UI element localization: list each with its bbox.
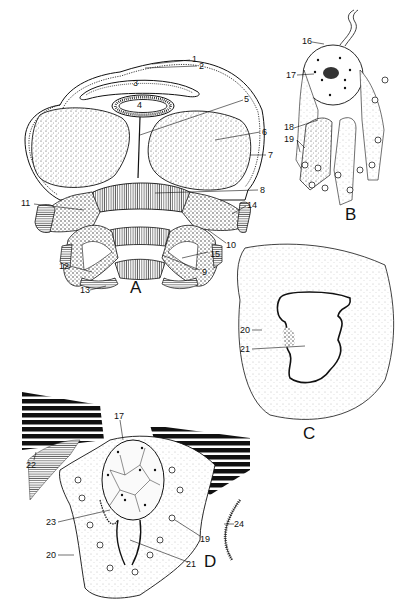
label-d-23: 23 — [46, 518, 56, 527]
label-a-9: 9 — [202, 268, 207, 277]
label-d-21: 21 — [186, 560, 196, 569]
panel-c-letter: C — [303, 425, 315, 442]
label-d-19: 19 — [200, 535, 210, 544]
label-a-12: 12 — [59, 262, 69, 271]
label-b-19: 19 — [284, 135, 294, 144]
label-a-1: 1 — [192, 55, 197, 64]
label-d-22: 22 — [26, 461, 36, 470]
label-a-11: 11 — [21, 199, 30, 208]
label-c-20: 20 — [240, 326, 250, 335]
label-a-2: 2 — [199, 62, 204, 71]
label-a-15: 15 — [210, 250, 220, 259]
label-c-21: 21 — [240, 345, 250, 354]
panel-c-drawing — [237, 244, 393, 419]
label-a-4: 4 — [137, 101, 142, 110]
label-a-5: 5 — [244, 95, 249, 104]
label-a-6: 6 — [262, 128, 267, 137]
label-b-16: 16 — [302, 37, 312, 46]
panel-a-letter: A — [130, 279, 141, 296]
label-a-3: 3 — [133, 79, 138, 88]
label-d-17: 17 — [114, 412, 124, 421]
label-d-24: 24 — [234, 520, 244, 529]
panel-b-letter: B — [345, 206, 356, 223]
label-a-8: 8 — [260, 186, 265, 195]
panel-d-letter: D — [204, 553, 216, 570]
label-a-14: 14 — [247, 201, 257, 210]
label-a-7: 7 — [268, 151, 273, 160]
label-a-10: 10 — [226, 241, 236, 250]
panel-a-drawing — [25, 60, 266, 290]
label-b-17: 17 — [286, 71, 296, 80]
figure: 1 2 3 4 5 6 7 8 9 10 11 12 13 14 15 A 16… — [0, 0, 408, 608]
figure-drawing — [0, 0, 408, 608]
label-b-18: 18 — [284, 123, 294, 132]
label-a-13: 13 — [80, 286, 90, 295]
label-d-20: 20 — [46, 551, 56, 560]
